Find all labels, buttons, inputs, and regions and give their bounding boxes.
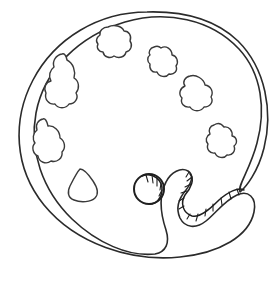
artwork-canvas [0, 0, 273, 281]
paint-palette-drawing [0, 0, 273, 281]
